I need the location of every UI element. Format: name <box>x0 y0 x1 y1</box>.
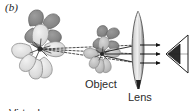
label-object: Object <box>85 79 117 91</box>
lens-leader-mark <box>136 80 141 89</box>
label-virtual-image-line1: Virtual <box>9 108 40 111</box>
converging-lens <box>132 11 144 89</box>
panel-label: (b) <box>5 1 18 13</box>
label-lens: Lens <box>128 92 152 104</box>
figure-panel-b: (b) Virtual image Object Lens <box>0 0 190 111</box>
virtual-image-flower <box>12 10 66 79</box>
eye-icon <box>166 35 188 73</box>
label-virtual-image: Virtual image <box>9 85 40 111</box>
